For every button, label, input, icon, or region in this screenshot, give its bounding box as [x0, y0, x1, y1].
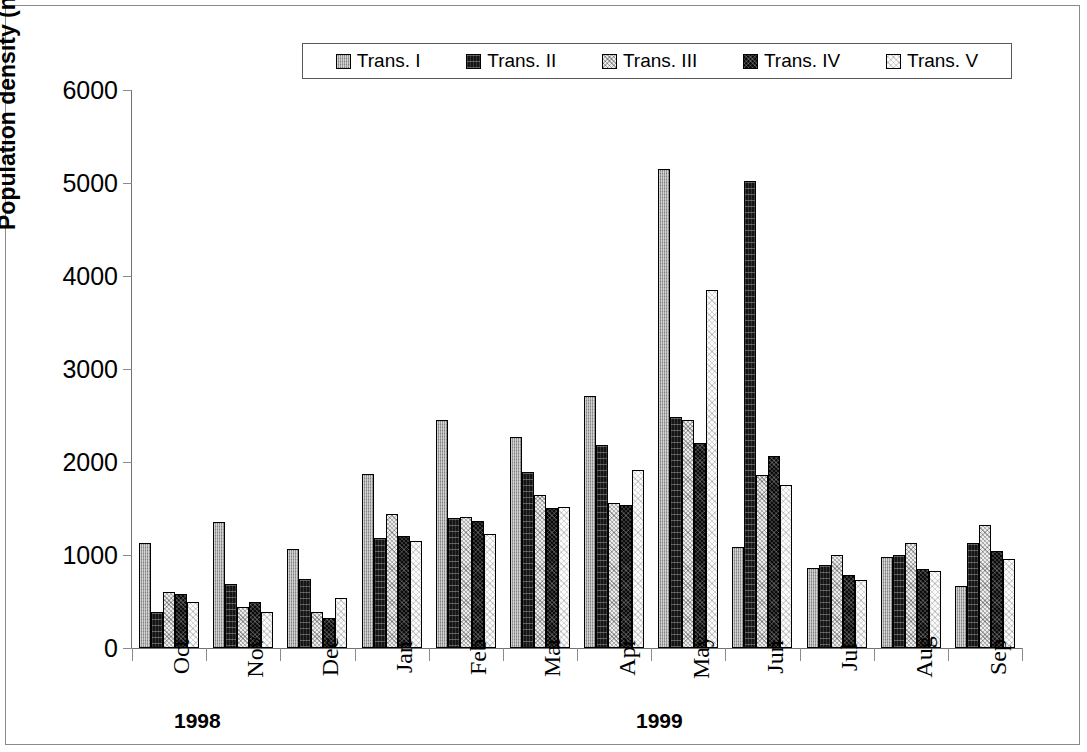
legend-swatch-icon — [886, 54, 901, 69]
bar[interactable] — [744, 181, 756, 648]
x-axis-label-cell: Dec — [280, 655, 354, 723]
y-axis-tick-label: 2000 — [62, 448, 118, 477]
bar[interactable] — [831, 555, 843, 648]
x-axis-labels: OctNovDecJanFebMarAprMayJunJulAugSep — [131, 655, 1022, 723]
bar[interactable] — [768, 456, 780, 648]
bar[interactable] — [967, 543, 979, 648]
bar[interactable] — [632, 470, 644, 648]
legend-swatch-icon — [602, 54, 617, 69]
bar-groups — [132, 90, 1022, 648]
bar-group — [429, 90, 503, 648]
x-axis-label-cell: Sep — [948, 655, 1022, 723]
x-axis-month-label: Jan — [391, 641, 418, 673]
y-axis-title-text: Population density (nos/m — [0, 0, 20, 230]
bar[interactable] — [436, 420, 448, 648]
bar[interactable] — [522, 472, 534, 648]
bar[interactable] — [682, 420, 694, 648]
bar[interactable] — [979, 525, 991, 648]
x-axis-label-cell: Aug — [874, 655, 948, 723]
x-axis-label-cell: Mar — [502, 655, 576, 723]
bar-group — [503, 90, 577, 648]
bar[interactable] — [410, 541, 422, 648]
bar[interactable] — [955, 586, 967, 648]
bar[interactable] — [398, 536, 410, 648]
bar[interactable] — [843, 575, 855, 648]
bar[interactable] — [670, 417, 682, 648]
chart-figure: Trans. ITrans. IITrans. IIITrans. IVTran… — [0, 0, 1087, 752]
bar[interactable] — [484, 534, 496, 648]
bar[interactable] — [213, 522, 225, 648]
x-axis-label-cell: Jan — [354, 655, 428, 723]
y-axis-tick-label: 4000 — [62, 262, 118, 291]
legend-item-label: Trans. I — [357, 50, 421, 72]
x-axis-month-label: Nov — [242, 636, 269, 677]
bar[interactable] — [510, 437, 522, 648]
bar[interactable] — [819, 565, 831, 648]
legend-item-label: Trans. III — [623, 50, 697, 72]
bar[interactable] — [756, 475, 768, 648]
y-axis-tick — [123, 369, 132, 370]
bar[interactable] — [374, 538, 386, 648]
bar[interactable] — [448, 518, 460, 648]
bar-group — [280, 90, 354, 648]
bar[interactable] — [694, 443, 706, 648]
bar[interactable] — [780, 485, 792, 648]
bar-group — [800, 90, 874, 648]
bar[interactable] — [706, 290, 718, 648]
bar-group — [948, 90, 1022, 648]
x-axis-month-label: Apr — [614, 638, 641, 675]
bar[interactable] — [287, 549, 299, 648]
bar[interactable] — [386, 514, 398, 648]
bar[interactable] — [546, 508, 558, 648]
bar[interactable] — [855, 580, 867, 648]
y-axis-tick — [123, 648, 132, 649]
bar[interactable] — [991, 551, 1003, 648]
x-axis-tick — [1022, 648, 1023, 661]
bar[interactable] — [139, 543, 151, 648]
bar[interactable] — [362, 474, 374, 648]
y-axis-tick-label: 3000 — [62, 355, 118, 384]
bar[interactable] — [534, 495, 546, 648]
bar[interactable] — [472, 521, 484, 648]
bar[interactable] — [596, 445, 608, 648]
legend-item: Trans. II — [466, 50, 556, 72]
x-axis-label-cell: Jul — [799, 655, 873, 723]
bar[interactable] — [905, 543, 917, 648]
y-axis-tick — [123, 462, 132, 463]
bar[interactable] — [460, 517, 472, 648]
bar-group — [355, 90, 429, 648]
x-axis-month-label: Feb — [465, 639, 492, 675]
x-axis-month-label: Aug — [911, 636, 938, 677]
bar[interactable] — [608, 503, 620, 648]
x-axis-label-cell: Feb — [428, 655, 502, 723]
legend-swatch-icon — [743, 54, 758, 69]
bar[interactable] — [558, 507, 570, 648]
bar[interactable] — [881, 557, 893, 648]
bar[interactable] — [620, 505, 632, 648]
bar-group — [874, 90, 948, 648]
x-axis-month-label: Dec — [317, 638, 344, 677]
bar[interactable] — [1003, 559, 1015, 648]
bar-group — [206, 90, 280, 648]
bar[interactable] — [299, 579, 311, 648]
x-axis-month-label: May — [688, 635, 715, 679]
bar[interactable] — [584, 396, 596, 648]
legend-item-label: Trans. II — [487, 50, 556, 72]
y-axis-tick-label: 1000 — [62, 541, 118, 570]
legend-item: Trans. I — [336, 50, 421, 72]
legend-swatch-icon — [336, 54, 351, 69]
bar[interactable] — [893, 555, 905, 648]
bar[interactable] — [225, 584, 237, 648]
bar[interactable] — [732, 547, 744, 648]
bar[interactable] — [807, 568, 819, 648]
bar[interactable] — [151, 612, 163, 648]
x-axis-month-label: Jul — [836, 643, 863, 671]
bar[interactable] — [658, 169, 670, 648]
bar-group — [651, 90, 725, 648]
bar-group — [725, 90, 799, 648]
legend-item: Trans. V — [886, 50, 978, 72]
legend-swatch-icon — [466, 54, 481, 69]
legend-item-label: Trans. IV — [764, 50, 840, 72]
x-axis-month-label: Mar — [539, 637, 566, 677]
y-axis-title: Population density (nos/m2) — [0, 0, 21, 230]
